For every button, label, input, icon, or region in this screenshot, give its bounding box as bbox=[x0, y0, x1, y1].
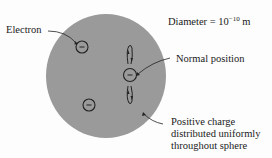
positive-charge-line-2: distributed uniformly bbox=[171, 128, 261, 140]
positive-charge-label: Positive charge distributed uniformly th… bbox=[171, 116, 261, 152]
positive-sphere bbox=[46, 14, 166, 138]
diameter-exponent: −10 bbox=[229, 15, 240, 23]
diameter-label: Diameter = 10−10 m bbox=[168, 16, 250, 28]
electron-label: Electron bbox=[6, 24, 42, 36]
diameter-prefix: Diameter = 10 bbox=[168, 16, 229, 27]
diameter-unit: m bbox=[242, 16, 250, 27]
positive-charge-line-3: throughout sphere bbox=[171, 140, 261, 152]
positive-charge-line-1: Positive charge bbox=[171, 116, 261, 128]
plum-pudding-diagram: Electron Diameter = 10−10 m Normal posit… bbox=[0, 0, 272, 158]
normal-position-label: Normal position bbox=[176, 53, 245, 65]
